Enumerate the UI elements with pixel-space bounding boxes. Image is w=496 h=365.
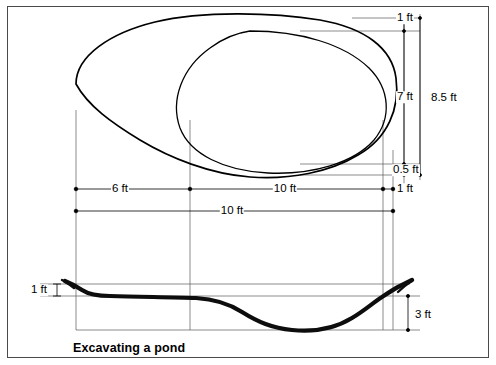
excavation-profile-curve	[65, 280, 412, 331]
projection-lines	[40, 14, 420, 330]
dimtick-85ft-a	[419, 17, 422, 20]
plan-view-outlines	[76, 14, 397, 178]
dim-label-7ft: 7 ft	[396, 91, 414, 103]
section-view-profile	[62, 280, 413, 331]
dimtick-overall-a	[74, 209, 78, 213]
dimtick-right-1ft-b	[391, 187, 395, 191]
outer-pond-outline	[76, 14, 397, 178]
figure-caption: Excavating a pond	[73, 341, 185, 355]
dimtick-overall-b	[391, 209, 395, 213]
dimtick-section-3ft-bottom	[406, 328, 409, 331]
dim-label-85ft: 8.5 ft	[430, 92, 458, 104]
dim-label-section-1ft: 1 ft	[30, 284, 48, 296]
dimtick-10ft-b	[381, 187, 385, 191]
dimtick-6ft-b	[188, 187, 192, 191]
dim-label-05ft: 0.5 ft	[392, 164, 420, 176]
dim-label-top-1ft: 1 ft	[396, 12, 414, 24]
inner-pond-outline	[177, 31, 387, 173]
dimtick-section-3ft-top	[406, 294, 409, 297]
dim-label-section-3ft: 3 ft	[414, 309, 432, 321]
figure-root: 1 ft 7 ft 8.5 ft 0.5 ft 1 ft 6 ft 10 ft …	[0, 0, 496, 365]
dim-label-overall-10ft: 10 ft	[220, 205, 244, 217]
dim-label-6ft: 6 ft	[111, 183, 129, 195]
dim-label-right-1ft: 1 ft	[396, 183, 414, 195]
dim-label-10ft: 10 ft	[273, 183, 297, 195]
dimtick-6ft-a	[74, 187, 78, 191]
